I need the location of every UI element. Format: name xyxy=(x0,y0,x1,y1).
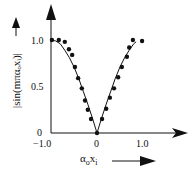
data-point xyxy=(89,117,93,121)
data-point xyxy=(108,95,112,99)
data-point xyxy=(100,117,104,121)
theory-curve xyxy=(51,40,136,133)
data-point xyxy=(120,65,124,69)
data-points xyxy=(50,38,145,135)
data-point xyxy=(104,107,108,111)
y-axis-label: |sin(mπαₒxᵢ)| xyxy=(10,53,23,108)
data-point xyxy=(131,38,135,42)
data-point xyxy=(83,98,87,102)
x-tick-0: 0 xyxy=(94,138,99,149)
data-point xyxy=(140,39,144,43)
x-tick-1: 1.0 xyxy=(136,138,149,149)
data-point xyxy=(112,86,116,90)
data-point xyxy=(57,38,61,42)
x-axis-label: αoxi xyxy=(80,152,98,167)
x-tick-neg1: −1.0 xyxy=(33,138,51,149)
data-point xyxy=(67,47,71,51)
data-point xyxy=(127,45,131,49)
y-tick-0: 0 xyxy=(37,127,42,138)
x-label-arrow-icon xyxy=(140,156,156,166)
chart-canvas: 1.0 0.5 0 −1.0 0 1.0 |sin(mπαₒxᵢ)| αoxi xyxy=(0,0,193,173)
y-tick-1: 1.0 xyxy=(31,35,44,46)
data-point xyxy=(80,86,84,90)
data-point xyxy=(125,55,129,59)
data-point xyxy=(86,108,90,112)
y-label-arrow-icon xyxy=(12,17,20,28)
y-axis-label-group: |sin(mπαₒxᵢ)| xyxy=(10,53,23,108)
y-axis-arrow-icon xyxy=(46,4,56,20)
data-point xyxy=(73,65,77,69)
data-point xyxy=(95,131,99,135)
y-tick-05: 0.5 xyxy=(31,81,44,92)
data-point xyxy=(50,38,54,42)
data-point xyxy=(63,40,67,44)
data-point xyxy=(116,75,120,79)
data-point xyxy=(76,76,80,80)
data-point xyxy=(70,53,74,57)
